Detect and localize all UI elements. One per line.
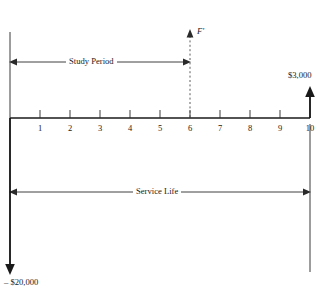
- inflow-amount-label: $3,000: [288, 71, 312, 80]
- future-value-arrowhead-icon: [187, 29, 194, 38]
- tick-label-1: 1: [30, 124, 50, 133]
- tick-label-8: 8: [240, 124, 260, 133]
- outflow-amount-label: – $20,000: [4, 278, 38, 287]
- cash-flow-svg: [0, 0, 335, 294]
- tick-label-7: 7: [210, 124, 230, 133]
- future-value-label: F': [197, 27, 204, 36]
- tick-label-3: 3: [90, 124, 110, 133]
- axis-tick-group: [40, 110, 280, 118]
- cash-flow-diagram: 1 2 3 4 5 6 7 8 9 10 Study Period Servic…: [0, 0, 335, 294]
- tick-label-5: 5: [150, 124, 170, 133]
- tick-label-6: 6: [180, 124, 200, 133]
- study-period-label: Study Period: [66, 57, 117, 66]
- tick-label-10: 10: [300, 124, 320, 133]
- outflow-arrowhead-icon: [5, 264, 15, 275]
- tick-label-4: 4: [120, 124, 140, 133]
- service-life-label: Service Life: [133, 187, 181, 196]
- inflow-arrowhead-icon: [305, 86, 315, 97]
- tick-label-2: 2: [60, 124, 80, 133]
- tick-label-9: 9: [270, 124, 290, 133]
